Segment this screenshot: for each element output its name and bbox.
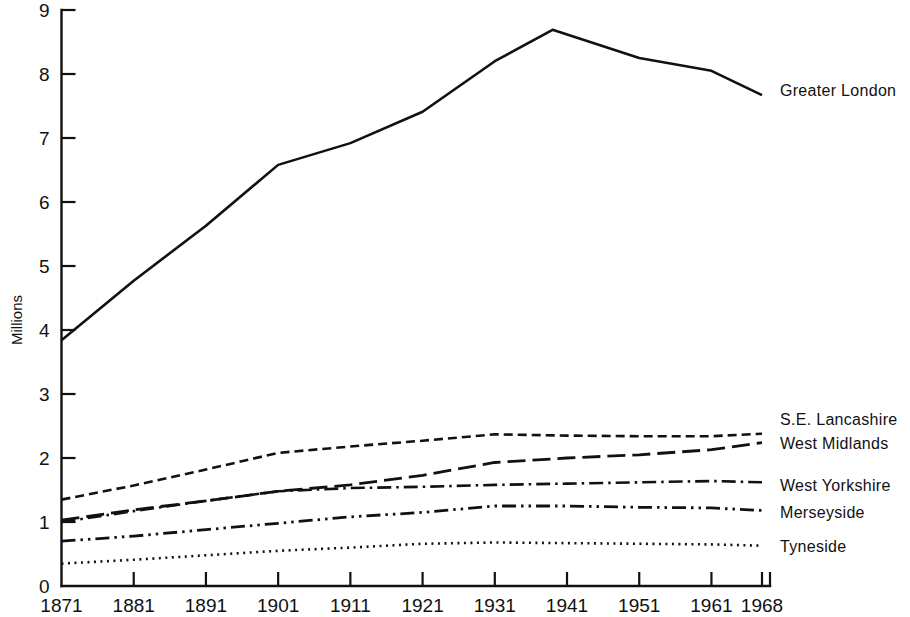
chart-axes: [62, 10, 771, 586]
series-line-greater-london: [62, 30, 763, 340]
series-line-merseyside: [62, 506, 763, 541]
y-tick-label-3: 3: [39, 384, 50, 405]
series-label-west-yorkshire: West Yorkshire: [780, 477, 891, 494]
x-axis-tick-labels: 1871188118911901191119211931194119511961…: [40, 595, 783, 616]
series-line-tyneside: [62, 542, 763, 563]
y-tick-label-2: 2: [39, 448, 50, 469]
chart-container: 0123456789 18711881189119011911192119311…: [0, 0, 910, 617]
series-label-tyneside: Tyneside: [780, 538, 846, 555]
y-tick-label-8: 8: [39, 64, 50, 85]
x-tick-label-1881: 1881: [113, 595, 155, 616]
x-tick-label-1901: 1901: [257, 595, 299, 616]
y-tick-label-9: 9: [39, 0, 50, 21]
series-label-west-midlands: West Midlands: [780, 435, 889, 452]
y-tick-label-4: 4: [39, 320, 50, 341]
y-axis-tick-labels: 0123456789: [39, 0, 50, 597]
y-axis-title: Millions: [8, 295, 25, 345]
line-chart-plot: 0123456789 18711881189119011911192119311…: [0, 0, 910, 617]
x-tick-label-1968: 1968: [741, 595, 783, 616]
x-tick-label-1891: 1891: [185, 595, 227, 616]
series-line-west-yorkshire: [62, 481, 763, 522]
x-tick-label-1941: 1941: [546, 595, 588, 616]
series-label-greater-london: Greater London: [780, 82, 896, 99]
series-line-west-midlands: [62, 443, 763, 520]
series-line-s-e-lancashire: [62, 434, 763, 500]
x-tick-label-1931: 1931: [474, 595, 516, 616]
x-tick-label-1911: 1911: [330, 595, 371, 616]
chart-series-labels: Greater LondonS.E. LancashireWest Midlan…: [780, 82, 897, 555]
x-tick-label-1871: 1871: [40, 595, 82, 616]
y-tick-label-1: 1: [39, 512, 50, 533]
y-tick-label-7: 7: [39, 128, 50, 149]
series-label-s-e-lancashire: S.E. Lancashire: [780, 411, 897, 428]
x-tick-label-1961: 1961: [690, 595, 732, 616]
series-label-merseyside: Merseyside: [780, 504, 865, 521]
y-axis-tick-marks: [62, 10, 76, 522]
y-tick-label-0: 0: [39, 576, 50, 597]
chart-series-lines: [62, 30, 763, 564]
x-axis-tick-marks: [134, 572, 770, 586]
x-tick-label-1951: 1951: [618, 595, 660, 616]
y-tick-label-6: 6: [39, 192, 50, 213]
y-tick-label-5: 5: [39, 256, 50, 277]
x-tick-label-1921: 1921: [401, 595, 443, 616]
